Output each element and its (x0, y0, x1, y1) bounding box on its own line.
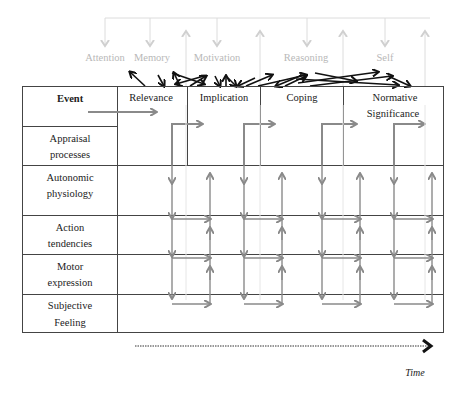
row-label-motor-line2: expression (48, 277, 94, 288)
faint-verticals (186, 105, 425, 300)
row-label-autonomic-line1: Autonomic (46, 172, 94, 183)
label-motivation: Motivation (194, 52, 241, 63)
stage-label-normative: Normative (373, 92, 418, 103)
row-label-event: Event (57, 93, 84, 104)
interaction-arrows (130, 72, 410, 86)
label-attention: Attention (85, 52, 125, 63)
row-label-appraisal-line2: processes (50, 149, 90, 160)
label-memory: Memory (134, 52, 171, 63)
row-label-motor-line1: Motor (57, 261, 84, 272)
row-label-autonomic-line2: physiology (47, 188, 94, 199)
row-label-appraisal-line1: Appraisal (50, 133, 91, 144)
stage-label-relevance: Relevance (129, 92, 173, 103)
stage-label-implication: Implication (200, 92, 249, 103)
row-label-subjective-line1: Subjective (48, 300, 93, 311)
row-label-action-line2: tendencies (48, 238, 92, 249)
table-grid (22, 86, 444, 333)
time-axis-label: Time (405, 367, 425, 378)
stage-label-significance: Significance (367, 108, 420, 119)
diagram-canvas: Attention Memory Motivation Reasoning Se… (0, 0, 464, 394)
label-self: Self (377, 52, 394, 63)
time-axis-arrow (135, 340, 431, 352)
response-flow-arrows (172, 165, 432, 304)
row-label-subjective-line2: Feeling (54, 317, 86, 328)
stage-label-coping: Coping (287, 92, 319, 103)
label-reasoning: Reasoning (284, 52, 329, 63)
row-label-action-line1: Action (56, 222, 85, 233)
appraisal-step-arrows (172, 124, 424, 165)
